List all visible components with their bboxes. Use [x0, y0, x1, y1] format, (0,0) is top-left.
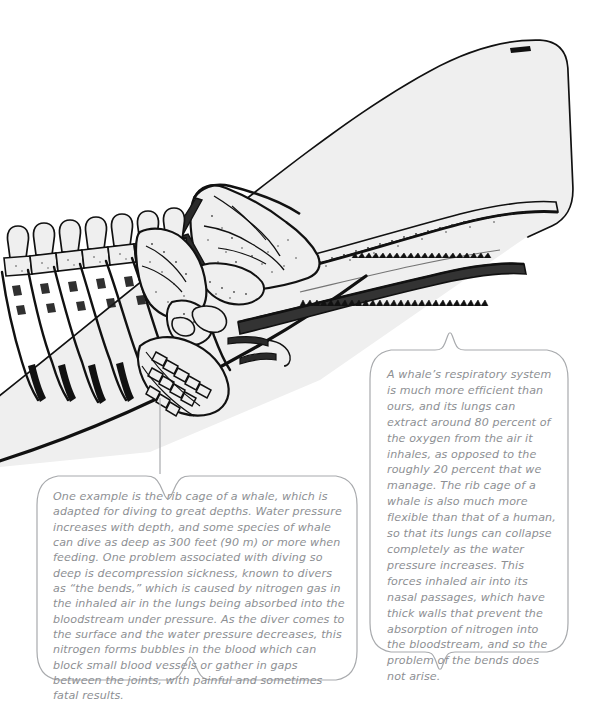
page-root: One example is the rib cage of a whale, …: [0, 0, 607, 706]
callout-rib-cage-diving[interactable]: One example is the rib cage of a whale, …: [36, 475, 358, 681]
callout-left-text: One example is the rib cage of a whale, …: [53, 489, 345, 704]
rib-shading: [12, 274, 174, 315]
callout-right-text: A whale’s respiratory system is much mor…: [387, 367, 557, 685]
skull-bones: [176, 185, 320, 366]
blowhole-icon: [510, 46, 531, 53]
callout-respiratory-system[interactable]: A whale’s respiratory system is much mor…: [369, 347, 569, 656]
vertebral-column: [4, 208, 211, 301]
rib-cage: [2, 252, 230, 402]
jaw-group: [238, 202, 558, 335]
rib-distal-ends: [28, 350, 213, 404]
misc-bones: [172, 306, 226, 336]
scapula-and-flipper: [136, 229, 229, 416]
